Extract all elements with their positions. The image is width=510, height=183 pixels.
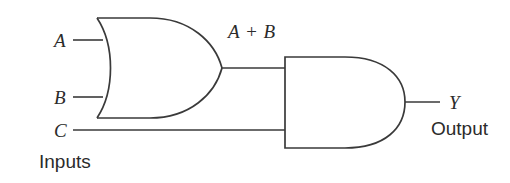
and-gate-body [285,57,405,148]
output-caption: Output [431,119,488,138]
output-label-y: Y [449,93,460,112]
logic-circuit-diagram: A B C A + B Y Output Inputs [0,0,510,183]
or-gate-top-edge [97,18,222,68]
input-label-a: A [54,31,66,50]
inputs-group-label: Inputs [39,152,91,171]
input-label-c: C [54,121,67,140]
input-label-b: B [54,88,66,107]
or-gate-bottom-edge [97,68,222,118]
or-gate-back-edge [97,18,111,118]
intermediate-signal-label: A + B [228,22,276,41]
